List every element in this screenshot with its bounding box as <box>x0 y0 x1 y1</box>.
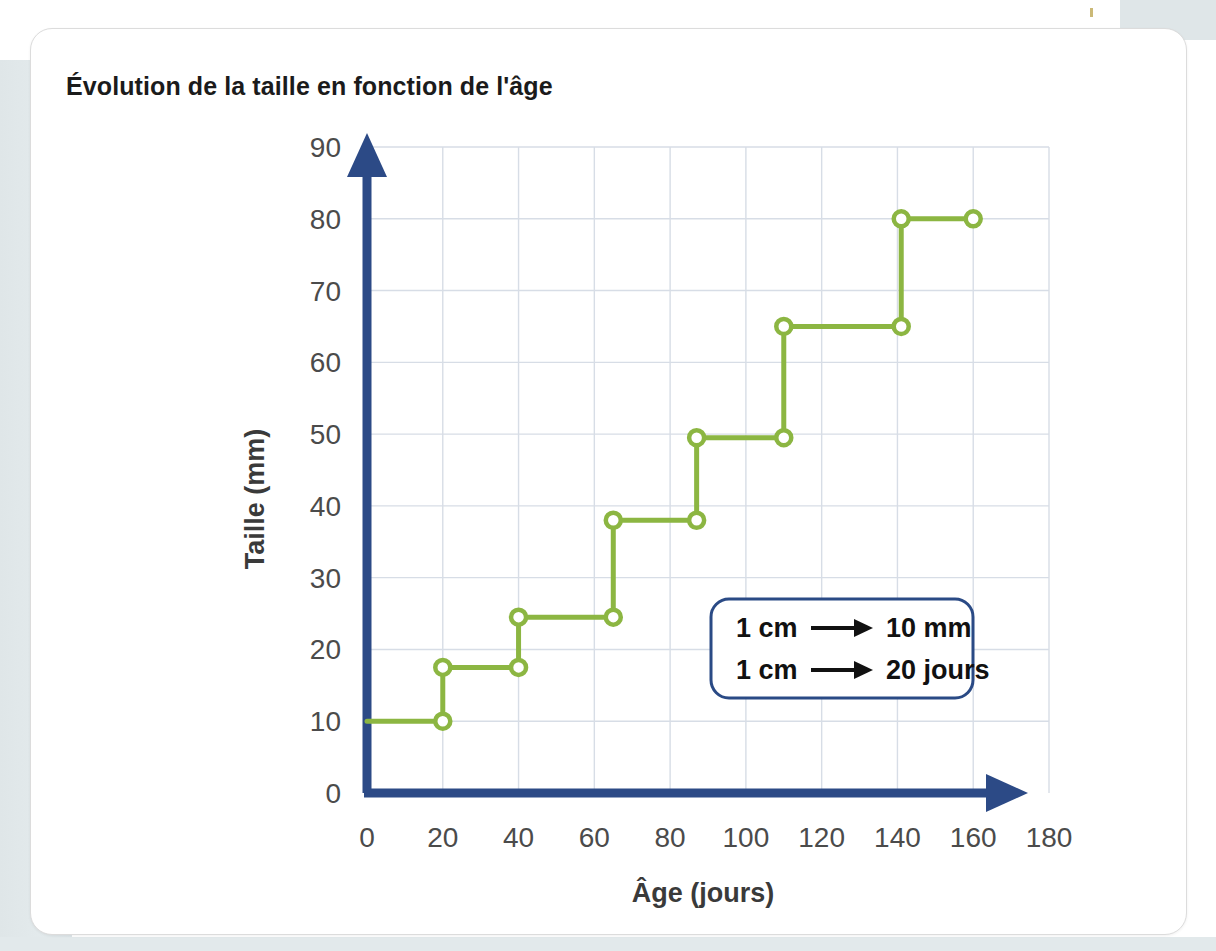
y-axis-tick-labels: 0102030405060708090 <box>310 132 341 809</box>
data-point-marker <box>894 319 909 334</box>
data-point-marker <box>894 211 909 226</box>
data-point-marker <box>435 660 450 675</box>
chart-svg: 0102030405060708090 02040608010012014016… <box>31 29 1186 934</box>
data-point-marker <box>606 610 621 625</box>
y-axis-tick-label: 90 <box>310 132 341 163</box>
x-axis-title: Âge (jours) <box>632 877 775 908</box>
x-axis-tick-labels: 020406080100120140160180 <box>359 822 1072 853</box>
legend-line2-right: 20 jours <box>886 655 990 685</box>
y-axis-tick-label: 20 <box>310 634 341 665</box>
y-axis-tick-label: 30 <box>310 563 341 594</box>
y-axis-tick-label: 80 <box>310 204 341 235</box>
data-point-marker <box>511 610 526 625</box>
y-axis-tick-label: 10 <box>310 706 341 737</box>
x-axis-tick-label: 180 <box>1026 822 1073 853</box>
y-axis-tick-label: 70 <box>310 276 341 307</box>
page-speck-mark <box>1090 8 1093 17</box>
plot-area: 0102030405060708090 02040608010012014016… <box>31 29 1186 934</box>
page-edge-strip-bottom <box>0 937 1216 951</box>
x-axis-tick-label: 120 <box>798 822 845 853</box>
y-axis-tick-label: 60 <box>310 347 341 378</box>
data-point-marker <box>689 430 704 445</box>
y-axis-arrowhead <box>347 133 387 177</box>
data-point-marker <box>776 430 791 445</box>
y-axis-title: Taille (mm) <box>240 429 270 570</box>
legend-line1-right: 10 mm <box>886 613 972 643</box>
scale-legend-box: 1 cm 10 mm 1 cm 20 jours <box>711 599 990 698</box>
x-axis-tick-label: 140 <box>874 822 921 853</box>
data-point-marker <box>606 513 621 528</box>
y-axis-tick-label: 50 <box>310 419 341 450</box>
x-axis-tick-label: 160 <box>950 822 997 853</box>
data-point-marker <box>776 319 791 334</box>
x-axis-tick-label: 80 <box>655 822 686 853</box>
y-axis-tick-label: 40 <box>310 491 341 522</box>
legend-line1-left: 1 cm <box>736 613 798 643</box>
data-point-marker <box>511 660 526 675</box>
data-point-marker <box>966 211 981 226</box>
chart-axes <box>347 133 1028 812</box>
chart-card: Évolution de la taille en fonction de l'… <box>30 28 1187 935</box>
x-axis-arrowhead <box>986 774 1028 812</box>
y-axis-tick-label: 0 <box>325 778 341 809</box>
x-axis-tick-label: 40 <box>503 822 534 853</box>
x-axis-tick-label: 20 <box>427 822 458 853</box>
legend-line2-left: 1 cm <box>736 655 798 685</box>
data-point-marker <box>435 714 450 729</box>
data-point-marker <box>689 513 704 528</box>
x-axis-tick-label: 100 <box>723 822 770 853</box>
x-axis-tick-label: 60 <box>579 822 610 853</box>
x-axis-tick-label: 0 <box>359 822 375 853</box>
